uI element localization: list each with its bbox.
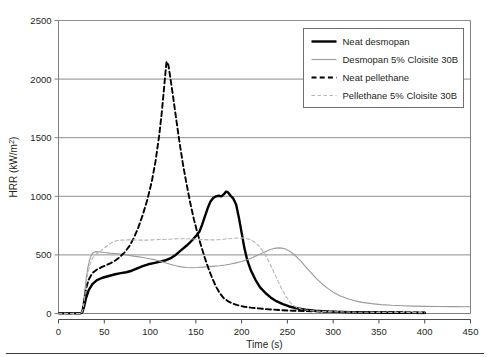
- legend-label-2: Desmopan 5% Cloisite 30B: [343, 54, 459, 65]
- x-axis: 050100150200250300350400450: [56, 320, 479, 337]
- x-tick-label: 50: [99, 326, 110, 337]
- legend-label-4: Pellethane 5% Cloisite 30B: [343, 90, 458, 101]
- y-tick-label: 1000: [30, 191, 51, 202]
- bottom-divider: [6, 353, 484, 354]
- x-tick-label: 200: [234, 326, 250, 337]
- legend-label-3: Neat pellethane: [343, 72, 410, 83]
- y-tick-label: 0: [46, 308, 51, 319]
- x-axis-title: Time (s): [246, 339, 282, 350]
- y-tick-label: 500: [36, 249, 52, 260]
- figure-container: 0500100015002000250005010015020025030035…: [0, 0, 490, 357]
- x-tick-label: 350: [371, 326, 387, 337]
- x-tick-label: 400: [417, 326, 433, 337]
- y-tick-label: 2000: [30, 74, 51, 85]
- legend: Neat desmopanDesmopan 5% Cloisite 30BNea…: [304, 29, 464, 108]
- x-tick-label: 450: [463, 326, 479, 337]
- series-line-2: [59, 248, 471, 314]
- hrr-line-chart: 0500100015002000250005010015020025030035…: [0, 0, 490, 357]
- y-axis-title: HRR (kW/m2): [7, 137, 19, 198]
- y-axis: 05001000150020002500: [30, 15, 58, 319]
- x-tick-label: 300: [325, 326, 341, 337]
- x-tick-label: 100: [142, 326, 158, 337]
- x-tick-label: 150: [188, 326, 204, 337]
- y-tick-label: 1500: [30, 132, 51, 143]
- legend-label-1: Neat desmopan: [343, 36, 410, 47]
- y-tick-label: 2500: [30, 15, 51, 26]
- x-tick-label: 0: [56, 326, 61, 337]
- series-line-1: [59, 192, 425, 314]
- x-tick-label: 250: [279, 326, 295, 337]
